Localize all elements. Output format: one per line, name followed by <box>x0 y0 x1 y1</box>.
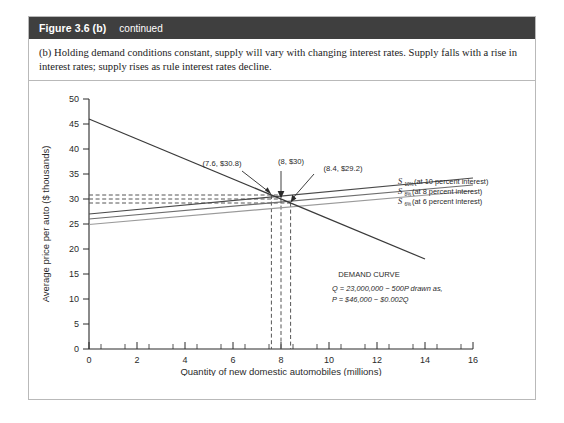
legend-label: (at 10 percent interest) <box>414 177 488 186</box>
y-tick-label: 45 <box>69 119 79 129</box>
demand-note-equation-q: Q = 23,000,000 − 500P drawn as, <box>332 284 443 293</box>
annotation-label-point-2: (8, $30) <box>278 157 305 166</box>
legend-label: (at 8 percent interest) <box>412 187 482 196</box>
annotation-label-point-3: (8.4, $29.2) <box>324 164 363 173</box>
supply-demand-chart: 0 5 10 15 20 25 30 35 40 45 50 <box>29 81 535 376</box>
figure-container: Figure 3.6 (b) continued (b) Holding dem… <box>28 16 536 400</box>
y-tick-label: 50 <box>69 94 79 104</box>
legend: S 10% (at 10 percent interest) S 8% (at … <box>398 177 488 207</box>
y-tick-label: 30 <box>69 194 79 204</box>
legend-symbol: S <box>398 197 403 206</box>
x-tick-label: 16 <box>468 355 478 365</box>
x-axis-title: Quantity of new domestic automobiles (mi… <box>180 366 381 376</box>
demand-curve <box>89 119 425 259</box>
reference-lines-horizontal <box>89 195 291 203</box>
y-tick-label: 0 <box>74 344 79 354</box>
legend-label: (at 6 percent interest) <box>412 197 482 206</box>
y-tick-label: 20 <box>69 244 79 254</box>
legend-subscript: 8% <box>405 192 412 197</box>
x-tick-label: 10 <box>324 355 334 365</box>
reference-lines-vertical <box>271 195 290 349</box>
figure-number: Figure 3.6 (b) <box>39 22 106 34</box>
y-tick-label: 15 <box>69 269 79 279</box>
y-tick-label: 40 <box>69 144 79 154</box>
legend-entry-10-percent: S 10% (at 10 percent interest) <box>398 177 488 187</box>
x-tick-label: 6 <box>230 355 235 365</box>
annotation-arrow-3 <box>291 174 314 203</box>
figure-header: Figure 3.6 (b) continued <box>29 17 535 39</box>
demand-curve-note: DEMAND CURVE Q = 23,000,000 − 500P drawn… <box>332 270 443 304</box>
annotation-arrow-2 <box>278 171 285 199</box>
x-tick-label: 2 <box>134 355 139 365</box>
y-tick-label: 5 <box>74 319 79 329</box>
annotation-arrow-1 <box>242 171 271 195</box>
x-axis-tick-labels: 0 2 4 6 8 10 12 14 16 <box>86 355 478 365</box>
y-tick-label: 35 <box>69 169 79 179</box>
demand-note-title: DEMAND CURVE <box>338 270 399 279</box>
x-tick-label: 14 <box>420 355 430 365</box>
figure-continued-label: continued <box>119 23 162 34</box>
figure-caption: (b) Holding demand conditions constant, … <box>29 39 535 81</box>
legend-subscript: 6% <box>405 202 412 207</box>
demand-note-equation-p: P = $46,000 − $0.002Q <box>332 295 409 304</box>
x-tick-label: 12 <box>372 355 382 365</box>
x-tick-label: 8 <box>278 355 283 365</box>
annotation-label-point-1: (7.6, $30.8) <box>203 159 242 168</box>
y-tick-label: 10 <box>69 294 79 304</box>
y-axis-title: Average price per auto ($ thousands) <box>40 146 51 303</box>
legend-entry-8-percent: S 8% (at 8 percent interest) <box>398 187 482 197</box>
chart-area: 0 5 10 15 20 25 30 35 40 45 50 <box>29 81 535 376</box>
x-tick-label: 4 <box>182 355 187 365</box>
y-tick-label: 25 <box>69 219 79 229</box>
legend-entry-6-percent: S 6% (at 6 percent interest) <box>398 197 482 207</box>
y-axis-tick-labels: 0 5 10 15 20 25 30 35 40 45 50 <box>69 94 79 354</box>
y-axis-ticks <box>83 99 89 349</box>
x-tick-label: 0 <box>86 355 91 365</box>
